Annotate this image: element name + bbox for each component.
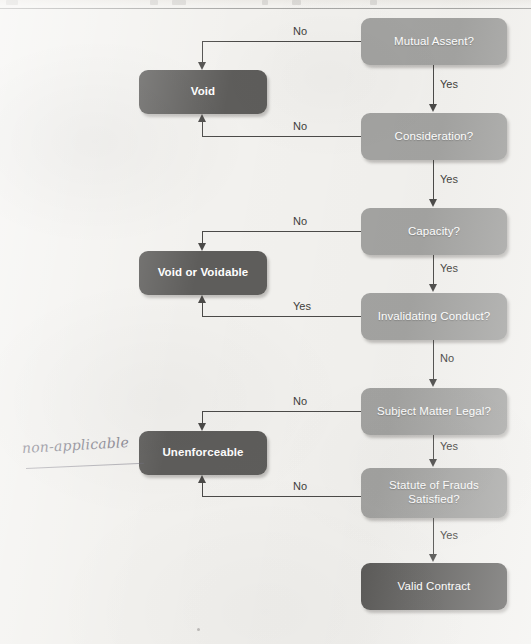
decision-node-invalidating-conduct-label: Invalidating Conduct? xyxy=(372,310,497,324)
edge-label-capacity-no: No xyxy=(293,215,307,227)
decision-node-consideration[interactable]: Consideration? xyxy=(361,113,507,160)
arrowhead-into-void-top xyxy=(198,62,206,70)
connector-statute-yes-vertical xyxy=(433,518,434,555)
decision-node-capacity-label: Capacity? xyxy=(402,225,466,239)
edge-label-invalidating-conduct-no: No xyxy=(440,352,454,364)
outcome-node-void-or-voidable-label: Void or Voidable xyxy=(152,266,255,280)
connector-mutual-assent-no-horizontal xyxy=(202,41,362,42)
outcome-node-unenforceable[interactable]: Unenforceable xyxy=(139,431,267,475)
connector-consideration-no-horizontal xyxy=(202,136,362,137)
edge-label-consideration-yes: Yes xyxy=(440,173,458,185)
edge-label-consideration-no: No xyxy=(293,120,307,132)
arrowhead-into-capacity xyxy=(429,199,437,207)
decision-node-statute-of-frauds[interactable]: Statute of Frauds Satisfied? xyxy=(361,468,507,518)
arrowhead-into-statute-of-frauds xyxy=(429,459,437,467)
outcome-node-valid-contract-label: Valid Contract xyxy=(392,580,477,594)
edge-label-capacity-yes: Yes xyxy=(440,262,458,274)
crop-ghost-mark xyxy=(292,0,301,5)
connector-consideration-yes-vertical xyxy=(433,160,434,200)
arrowhead-into-consideration xyxy=(429,104,437,112)
outcome-node-valid-contract[interactable]: Valid Contract xyxy=(361,563,507,610)
connector-statute-no-horizontal xyxy=(202,496,362,497)
connector-subject-matter-no-horizontal xyxy=(202,411,362,412)
arrowhead-into-valid-contract xyxy=(429,554,437,562)
decision-node-consideration-label: Consideration? xyxy=(389,130,480,144)
connector-invalidating-conduct-yes-vertical xyxy=(202,303,203,317)
connector-invalidating-conduct-yes-horizontal xyxy=(202,316,362,317)
outcome-node-void-or-voidable[interactable]: Void or Voidable xyxy=(139,251,267,295)
handwritten-annotation: non-applicable xyxy=(22,434,130,456)
outcome-node-unenforceable-label: Unenforceable xyxy=(156,446,249,460)
decision-node-mutual-assent[interactable]: Mutual Assent? xyxy=(361,18,507,65)
connector-consideration-no-vertical xyxy=(202,122,203,137)
flowchart-page: Mutual Assent? Consideration? Capacity? … xyxy=(0,0,531,644)
statute-label-line-1: Statute of Frauds xyxy=(389,479,479,491)
connector-subject-matter-yes-vertical xyxy=(433,435,434,461)
crop-ghost-mark xyxy=(150,0,158,5)
scan-speck xyxy=(197,628,200,631)
edge-label-mutual-assent-no: No xyxy=(293,25,307,37)
decision-node-invalidating-conduct[interactable]: Invalidating Conduct? xyxy=(361,293,507,340)
outcome-node-void-label: Void xyxy=(185,85,221,99)
header-divider-rule xyxy=(0,8,531,9)
arrowhead-into-void-or-voidable-top xyxy=(198,243,206,251)
handwritten-annotation-underline xyxy=(26,463,144,469)
edge-label-subject-matter-yes: Yes xyxy=(440,440,458,452)
arrowhead-into-void-bottom xyxy=(198,114,206,122)
connector-capacity-no-horizontal xyxy=(202,231,362,232)
statute-label-line-2: Satisfied? xyxy=(408,493,460,505)
edge-label-statute-yes: Yes xyxy=(440,529,458,541)
edge-label-mutual-assent-yes: Yes xyxy=(440,78,458,90)
arrowhead-into-invalidating-conduct xyxy=(429,284,437,292)
outcome-node-void[interactable]: Void xyxy=(139,70,267,114)
edge-label-invalidating-conduct-yes: Yes xyxy=(293,300,311,312)
decision-node-subject-matter-legal[interactable]: Subject Matter Legal? xyxy=(361,388,507,435)
decision-node-subject-matter-legal-label: Subject Matter Legal? xyxy=(371,405,497,419)
connector-invalidating-conduct-no-vertical xyxy=(433,340,434,380)
decision-node-capacity[interactable]: Capacity? xyxy=(361,208,507,255)
crop-ghost-mark xyxy=(262,0,268,5)
arrowhead-into-unenforceable-bottom xyxy=(198,475,206,483)
connector-statute-no-vertical xyxy=(202,483,203,497)
cropped-header-band xyxy=(0,0,531,7)
edge-label-subject-matter-no: No xyxy=(293,395,307,407)
connector-mutual-assent-no-vertical xyxy=(202,41,203,63)
arrowhead-into-void-or-voidable-bottom xyxy=(198,295,206,303)
arrowhead-into-unenforceable-top xyxy=(198,423,206,431)
decision-node-statute-of-frauds-label: Statute of Frauds Satisfied? xyxy=(383,479,485,506)
connector-capacity-yes-vertical xyxy=(433,255,434,285)
arrowhead-into-subject-matter-legal xyxy=(429,379,437,387)
crop-ghost-mark xyxy=(172,0,186,5)
crop-ghost-mark xyxy=(370,0,377,5)
crop-ghost-mark xyxy=(6,0,18,5)
connector-mutual-assent-yes-vertical xyxy=(433,65,434,105)
decision-node-mutual-assent-label: Mutual Assent? xyxy=(388,35,480,49)
edge-label-statute-no: No xyxy=(293,480,307,492)
